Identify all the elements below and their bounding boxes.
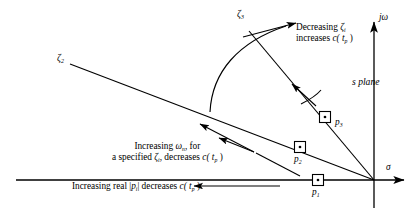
annotation-increasing-omega-n-line1: Increasing ωn, for — [112, 141, 223, 152]
annotation-decreasing-zeta-line2: increases c( tp ) — [296, 33, 353, 44]
pole-marker-p1[interactable] — [313, 175, 324, 186]
omega-n-arc-path — [210, 26, 286, 112]
constant-omega-arc — [210, 26, 286, 112]
pole-marker-p2[interactable] — [295, 142, 306, 153]
annotation-increasing-omega-n: Increasing ωn, for a specified ζi, decre… — [112, 141, 223, 163]
pole-marker-p3[interactable] — [320, 112, 331, 123]
omega-text-leader-b — [219, 138, 254, 152]
annotation-decreasing-zeta: Decreasing ζi increases c( tp ) — [296, 22, 353, 44]
annotation-increasing-real-pole: Increasing real |pi| decreases c( tp ) — [72, 181, 200, 192]
pole-label-p2: p2 — [294, 154, 302, 165]
pole-label-p3: p3 — [335, 117, 343, 128]
zeta3-leader-arrow — [243, 23, 296, 37]
damping-ray-label-zeta3: ζ3 — [237, 9, 244, 20]
annotation-decreasing-zeta-line1: Decreasing ζi — [296, 22, 353, 33]
damping-ray-label-zeta2: ζ2 — [57, 53, 64, 64]
jomega-axis-label: jω — [379, 12, 388, 22]
s-plane-label: s plane — [352, 77, 379, 88]
annotation-increasing-omega-n-line2: a specified ζi, decreases c( tp ) — [112, 152, 223, 163]
damping-ray-zeta3 — [249, 31, 374, 180]
leader-arrow-group — [16, 84, 404, 186]
pole-label-p1: p1 — [312, 187, 320, 198]
sigma-axis-label: σ — [386, 162, 391, 172]
pole-marker-group — [295, 112, 331, 186]
